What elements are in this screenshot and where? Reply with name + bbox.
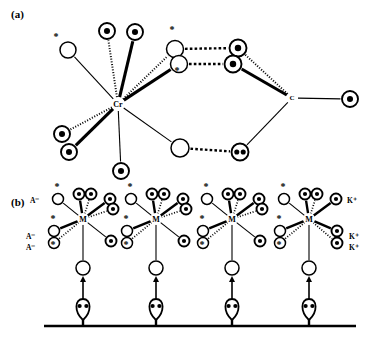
asterisk-marker: * — [277, 239, 282, 250]
panel-a-node-open-bridge-upper: * — [167, 24, 184, 58]
panel-b-cluster-1-open-star-upper-left: * — [53, 181, 64, 205]
open-circle — [53, 194, 64, 205]
center-dot — [181, 197, 185, 201]
panel-a-atom-label-group: CrC — [112, 93, 298, 111]
anchor-circle — [302, 261, 316, 275]
ligand-bond-dot-lower-right — [236, 222, 254, 236]
panel-b-cluster-4: ***M — [275, 181, 343, 326]
open-circle — [171, 139, 189, 157]
ion-label-cluster-4-1: K⁺ — [349, 232, 359, 241]
panel-b-cluster-1: ***M — [49, 181, 119, 326]
ligand-bond-dot-top-a — [153, 201, 155, 214]
bond-bold-4 — [76, 109, 113, 145]
panel-b-cluster-3-dot-upper-right-b — [257, 204, 268, 215]
panel-b-cluster-2-dot-top-b — [159, 189, 170, 200]
binding-arrow-head — [306, 276, 312, 282]
bond-thin-15 — [298, 98, 341, 99]
panel-b-cluster-4-dot-upper-right — [331, 194, 342, 205]
panel-b-cluster-3-open-star-left-b: * — [198, 238, 209, 251]
asterisk-marker: * — [51, 213, 56, 224]
panel-b-cluster-3-dot-lower-right — [255, 236, 266, 247]
open-circle — [122, 226, 133, 237]
bond-thin-14 — [247, 102, 288, 144]
ligand-bond-open-star-upper-left — [212, 203, 227, 215]
bond-dotted-3 — [70, 107, 111, 129]
receptor-eye-left — [151, 304, 155, 308]
center-dot — [89, 192, 93, 196]
panel-b-cluster-3-open-star-left-a: * — [198, 213, 209, 237]
anchor-circle — [76, 261, 90, 275]
panel-a-node-double-dot-bottom-right — [232, 144, 249, 161]
receptor-head — [225, 299, 238, 320]
center-dot-right — [241, 149, 246, 154]
panel-b-cluster-3: ***M — [198, 181, 268, 326]
panel-a-node-dot-top-right — [127, 24, 143, 40]
receptor-eye-right — [84, 304, 88, 308]
center-dot — [260, 207, 264, 211]
panel-a-node-open-star-upper-left: * — [54, 31, 77, 58]
panel-a-bond-group — [70, 40, 340, 161]
center-dot-left — [234, 149, 239, 154]
center-atom-label-cr: Cr — [113, 100, 123, 109]
panel-a-label: (a) — [11, 8, 24, 20]
panel-b-cluster-1-dot-upper-right-b — [108, 204, 119, 215]
center-dot — [257, 197, 261, 201]
ligand-bond-open-star-left-a — [133, 221, 151, 228]
center-dot — [315, 192, 319, 196]
center-dot — [132, 29, 138, 35]
binding-arrow-head — [229, 276, 235, 282]
receptor-head — [149, 299, 162, 320]
open-circle — [279, 194, 290, 205]
open-circle — [198, 226, 209, 237]
asterisk-marker: * — [124, 213, 129, 224]
ligand-bond-dot-top-a — [229, 201, 231, 214]
center-dot — [303, 192, 307, 196]
center-dot — [258, 239, 262, 243]
bond-dashed-h-9 — [185, 48, 228, 49]
receptor-head — [302, 299, 315, 320]
receptor-eye-left — [304, 304, 308, 308]
ligand-bond-dot-top-b — [311, 200, 315, 213]
bond-bold-7 — [124, 69, 171, 100]
metal-center-label: M — [305, 215, 313, 224]
asterisk-marker: * — [200, 213, 205, 224]
metal-center-label: M — [79, 215, 87, 224]
asterisk-marker: * — [200, 239, 205, 250]
panel-b-cluster-3-dot-top-b — [235, 189, 246, 200]
center-dot — [108, 197, 112, 201]
receptor-eye-right — [157, 304, 161, 308]
bond-thin-8 — [124, 108, 172, 142]
ion-label-cluster-1-2: A⁻ — [26, 243, 35, 252]
asterisk-marker: * — [175, 65, 180, 76]
center-dot — [66, 149, 72, 155]
center-dot — [334, 197, 338, 201]
center-dot — [347, 96, 353, 102]
panel-b-cluster-2-open-star-left-b: * — [122, 238, 133, 251]
asterisk-marker: * — [55, 181, 60, 192]
panel-b-cluster-2-dot-top-a — [147, 189, 158, 200]
panel-b-cluster-4-dot-top-a — [300, 189, 311, 200]
ion-label-cluster-1-1: A⁻ — [26, 232, 35, 241]
center-dot — [226, 192, 230, 196]
binding-arrow-head — [80, 276, 86, 282]
bridge-atom-label-c: C — [289, 94, 294, 102]
asterisk-marker: * — [54, 31, 59, 42]
ring-circle — [232, 144, 249, 161]
center-dot — [335, 241, 339, 245]
bond-thin-0 — [74, 57, 113, 99]
receptor-eye-left — [227, 304, 231, 308]
bond-bold-13 — [242, 69, 287, 95]
panel-b-cluster-2-open-star-upper-left: * — [126, 181, 137, 205]
center-dot — [335, 229, 339, 233]
ligand-bond-open-star-left-a — [60, 221, 78, 228]
asterisk-marker: * — [51, 239, 56, 250]
ligand-bond-dot-top-b — [158, 200, 162, 213]
panel-b-cluster-1-dot-lower-right — [106, 236, 117, 247]
panel-b-cluster-1-dot-top-a — [74, 189, 85, 200]
panel-a-node-open-bridge-lower: * — [171, 56, 188, 77]
center-dot — [104, 28, 110, 34]
metal-center-label: M — [152, 215, 160, 224]
bond-dotted-1 — [108, 40, 117, 97]
panel-b-cluster-1-dot-top-b — [86, 189, 97, 200]
panel-a-node-dot-top-left — [99, 23, 115, 39]
